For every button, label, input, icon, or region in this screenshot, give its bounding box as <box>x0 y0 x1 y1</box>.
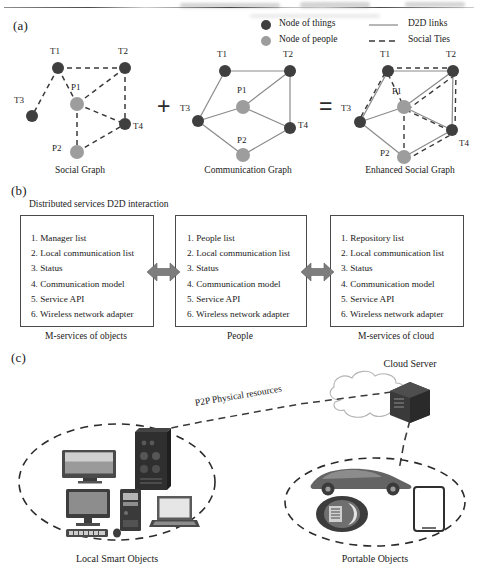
p2p-dashed-link <box>136 392 392 435</box>
list-item: 5. Service API <box>187 292 290 307</box>
node-things-swatch <box>261 20 271 30</box>
enhanced-graph-label-T2: T2 <box>446 49 456 59</box>
cloud-server-icon <box>390 382 430 423</box>
communication-graph-node-T3 <box>192 115 204 127</box>
communication-graph-caption: Communication Graph <box>188 165 308 175</box>
social-graph-label-T3: T3 <box>14 95 24 105</box>
pc-tower-icon <box>120 489 141 531</box>
enhanced-graph-node-P1 <box>397 100 411 114</box>
p2p-link-label: P2P Physical resources <box>194 384 282 408</box>
legend-label-social-ties: Social Ties <box>408 34 450 44</box>
enhanced-graph-label-T3: T3 <box>341 103 351 113</box>
panel-label-a: (a) <box>13 18 28 34</box>
mouse-icon <box>113 529 121 538</box>
server-tower-icon <box>135 428 171 490</box>
scan-smudge <box>300 2 370 8</box>
social-graph-node-P2 <box>70 145 84 159</box>
list-item: 6. Wireless network adapter <box>341 307 444 322</box>
people-caption: People <box>175 331 305 341</box>
tablet-icon <box>414 487 444 531</box>
enhanced-graph-node-P2 <box>397 150 411 164</box>
tv-icon <box>62 450 116 484</box>
enhanced-graph-label-T4: T4 <box>459 138 469 148</box>
social-graph-label-T4: T4 <box>133 121 143 131</box>
laptop-icon <box>149 496 200 527</box>
m-services-of-objects-caption: M-services of objects <box>20 331 152 341</box>
enhanced-graph-node-T4 <box>446 124 458 136</box>
cloud-server-label: Cloud Server <box>365 358 455 369</box>
social-graph-node-P1 <box>70 97 84 111</box>
m-services-of-cloud-caption: M-services of cloud <box>330 331 462 341</box>
social-graph-label-T1: T1 <box>50 46 60 56</box>
communication-graph-node-T4 <box>284 122 296 134</box>
scan-smudge <box>405 2 465 7</box>
m-services-of-objects-list: 1. Manager list 2. Local communication l… <box>31 231 134 322</box>
social-graph-label-P1: P1 <box>71 82 81 92</box>
list-item: 3. Status <box>31 261 134 276</box>
enhanced-graph-label-T1: T1 <box>380 49 390 59</box>
enhanced-graph-node-T3 <box>354 116 366 128</box>
list-item: 5. Service API <box>341 292 444 307</box>
enhanced-graph-caption: Enhanced Social Graph <box>345 165 475 175</box>
social-graph-label-P2: P2 <box>52 143 62 153</box>
communication-graph-label-T1: T1 <box>217 49 227 59</box>
list-item: 3. Status <box>341 261 444 276</box>
legend-label-node-people: Node of people <box>279 34 338 44</box>
list-item: 6. Wireless network adapter <box>187 307 290 322</box>
communication-graph-label-T4: T4 <box>298 120 308 130</box>
enhanced-graph-solid-edges <box>360 71 453 157</box>
m-services-of-cloud-list: 1. Repository list 2. Local communicatio… <box>341 231 444 322</box>
list-item: 1. Manager list <box>31 231 134 246</box>
portable-objects-caption: Portable Objects <box>325 553 425 564</box>
scan-smudge <box>180 3 280 8</box>
plus-operator: + <box>157 93 170 120</box>
social-graph-node-T3 <box>26 110 38 122</box>
portable-objects-ellipse <box>285 458 465 546</box>
communication-graph-label-P1: P1 <box>237 85 247 95</box>
cloud-outline <box>330 371 405 417</box>
local-smart-objects-caption: Local Smart Objects <box>57 553 177 564</box>
list-item: 2. Local communication list <box>187 246 290 261</box>
communication-graph-node-T1 <box>219 65 231 77</box>
enhanced-graph-label-P2: P2 <box>380 148 390 158</box>
list-item: 2. Local communication list <box>31 246 134 261</box>
communication-graph-node-T2 <box>284 65 296 77</box>
list-item: 5. Service API <box>31 292 134 307</box>
local-smart-objects-ellipse <box>19 424 215 540</box>
list-item: 3. Status <box>187 261 290 276</box>
communication-graph-node-P1 <box>236 100 250 114</box>
enhanced-graph-node-T1 <box>382 65 394 77</box>
social-graph-caption: Social Graph <box>30 165 130 175</box>
social-graph-node-T2 <box>119 62 131 74</box>
car-icon <box>311 469 412 496</box>
panel-label-b: (b) <box>11 183 27 199</box>
people-list: 1. People list 2. Local communication li… <box>187 231 290 322</box>
legend-label-d2d-links: D2D links <box>408 18 447 28</box>
social-graph-label-T2: T2 <box>118 46 128 56</box>
list-item: 1. People list <box>187 231 290 246</box>
figure-root: (a) Node of things Node of people D2D li… <box>0 0 480 575</box>
communication-graph-label-P2: P2 <box>237 135 247 145</box>
communication-graph-label-T3: T3 <box>180 103 190 113</box>
keyboard-icon <box>66 529 108 537</box>
list-item: 4. Communication model <box>31 277 134 292</box>
list-item: 4. Communication model <box>187 277 290 292</box>
node-people-swatch <box>261 36 271 46</box>
enhanced-graph-dashed-edges <box>357 68 456 160</box>
enhanced-graph-label-P1: P1 <box>392 86 402 96</box>
panel-label-c: (c) <box>11 350 26 366</box>
enhanced-graph-node-T2 <box>447 65 459 77</box>
legend-label-node-things: Node of things <box>279 18 335 28</box>
panel-b-heading: Distributed services D2D interaction <box>29 199 169 209</box>
smartwatch-icon <box>316 496 368 532</box>
social-graph-node-T4 <box>119 118 131 130</box>
list-item: 4. Communication model <box>341 277 444 292</box>
list-item: 1. Repository list <box>341 231 444 246</box>
cloud-server-down-link <box>399 420 410 470</box>
equals-operator: = <box>319 93 332 120</box>
social-graph-node-T1 <box>52 62 64 74</box>
desktop-monitor-icon <box>66 489 110 526</box>
communication-graph-label-T2: T2 <box>283 49 293 59</box>
communication-graph-node-P2 <box>236 148 250 162</box>
list-item: 2. Local communication list <box>341 246 444 261</box>
